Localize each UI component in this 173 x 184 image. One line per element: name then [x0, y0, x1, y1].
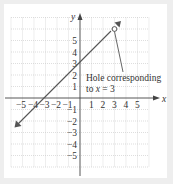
y-tick: 2 [72, 71, 77, 81]
y-tick: −2 [67, 117, 77, 127]
x-tick: 3 [112, 100, 117, 110]
axes [5, 13, 160, 176]
y-axis-label: y [70, 12, 76, 22]
y-axis-arrow-icon [78, 13, 83, 20]
y-tick: 5 [72, 36, 77, 46]
hole-marker [112, 27, 117, 32]
x-tick: 1 [89, 100, 94, 110]
x-tick: −5 [16, 100, 26, 110]
y-tick: −5 [67, 151, 77, 161]
x-tick: 2 [101, 100, 106, 110]
y-tick: 4 [72, 48, 77, 58]
y-tick: −3 [67, 128, 77, 138]
x-axis-arrow-icon [153, 96, 160, 101]
hole-label-line1: Hole corresponding [86, 73, 161, 83]
x-axis-label: x [161, 94, 167, 104]
y-tick: 1 [72, 82, 77, 92]
x-tick: −2 [51, 100, 61, 110]
x-tick: 4 [124, 100, 129, 110]
x-tick: 5 [135, 100, 140, 110]
y-tick: −4 [67, 140, 77, 150]
x-tick-labels: −5 −4 −3 −2 −1 1 2 3 4 5 [16, 100, 140, 110]
hole-label-line2: to x = 3 [86, 84, 115, 94]
coordinate-graph: x y −5 −4 −3 −2 −1 1 2 3 4 5 5 4 3 2 1 −… [0, 0, 173, 184]
y-tick: −1 [67, 105, 77, 115]
